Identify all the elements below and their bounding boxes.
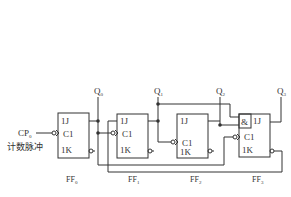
cp0-label: CP0 — [18, 128, 32, 139]
q0-label: Q0 — [94, 86, 104, 97]
ff1-pin-1j: 1J — [120, 116, 129, 126]
ff0-label: FF0 — [66, 175, 78, 185]
count-pulse-caption: 计数脉冲 — [7, 141, 43, 152]
ff0-pin-1j: 1J — [61, 116, 70, 126]
ff3-pin-c1: C1 — [244, 132, 255, 142]
q1-label: Q1 — [154, 86, 164, 97]
ff0-pin-c1: C1 — [63, 129, 74, 139]
ff3-label: FF3 — [252, 175, 264, 185]
ff3-pin-1j: 1J — [253, 116, 262, 126]
ff0-pin-1k: 1K — [61, 145, 73, 155]
ff1-pin-1k: 1K — [120, 145, 132, 155]
ff2-label: FF2 — [190, 175, 202, 185]
ff3-pin-1k: 1K — [242, 145, 254, 155]
ff1-label: FF1 — [128, 175, 140, 185]
svg-text:1K: 1K — [180, 147, 192, 157]
q2-label: Q2 — [216, 86, 226, 97]
ff3-and-symbol: & — [241, 117, 248, 127]
ff1-pin-c1: C1 — [122, 129, 133, 139]
circuit-diagram: 1J C1 1K 1J C1 1K 1J C1 1K & 1J C1 1K 1K… — [0, 0, 291, 197]
q3-label: Q3 — [277, 86, 287, 97]
ff2-pin-1j: 1J — [180, 116, 189, 126]
